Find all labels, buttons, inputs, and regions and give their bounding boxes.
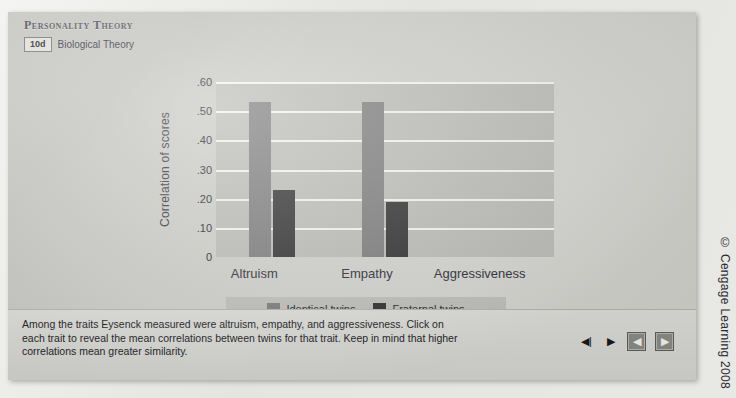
caption-text: Among the traits Eysenck measured were a… [22,318,462,359]
gridline [216,82,554,84]
y-tick-label: 0 [176,251,212,263]
bar-empathy-fraternal[interactable] [386,202,408,257]
play-icon[interactable]: ▶ [603,334,618,349]
page-title: Personality Theory [24,18,134,33]
next-icon[interactable]: ▶ [655,332,674,351]
copyright-notice: © Cengage Learning 2008 [718,236,732,389]
module-bar: 10d Biological Theory [24,37,134,52]
plot-area [216,82,554,257]
slide-header: Personality Theory 10d Biological Theory [24,18,134,52]
module-badge: 10d [24,37,52,52]
bar-altruism-fraternal[interactable] [273,190,295,257]
x-label-empathy[interactable]: Empathy [311,266,424,281]
bar-chart: Correlation of scores .60.50.40.30.20.10… [158,70,558,285]
y-tick-label: .50 [176,105,212,117]
bar-empathy-identical[interactable] [362,102,384,257]
scanned-page: Personality Theory 10d Biological Theory… [0,0,736,398]
y-axis-label: Correlation of scores [158,112,172,227]
bar-altruism-identical[interactable] [249,102,271,257]
y-tick-label: .60 [176,76,212,88]
playback-controls: ◀|▶◀▶ [579,332,674,351]
y-tick-label: .10 [176,222,212,234]
x-label-altruism[interactable]: Altruism [198,266,311,281]
module-label: Biological Theory [58,39,135,50]
y-tick-label: .20 [176,193,212,205]
previous-icon[interactable]: ◀ [627,332,646,351]
volume-icon[interactable]: ◀| [579,334,594,349]
y-axis-ticks: .60.50.40.30.20.100 [176,70,212,258]
media-slide-panel: Personality Theory 10d Biological Theory… [8,12,696,380]
y-tick-label: .30 [176,164,212,176]
caption-strip: Among the traits Eysenck measured were a… [8,309,696,380]
y-tick-label: .40 [176,134,212,146]
x-axis-labels: AltruismEmpathyAggressiveness [198,266,558,281]
x-label-aggressiveness[interactable]: Aggressiveness [423,266,536,281]
